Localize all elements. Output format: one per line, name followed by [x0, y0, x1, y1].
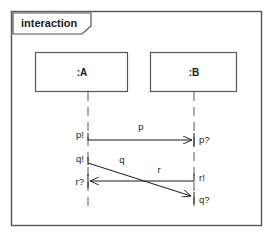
message-q-receive-event: q? — [199, 194, 210, 205]
message-q-send-event: q! — [76, 153, 84, 164]
frame-label-text: interaction — [21, 17, 78, 29]
message-q-label: q — [119, 154, 124, 165]
lifeline-a-name: :A — [77, 67, 88, 78]
message-p-receive-event: p? — [199, 134, 210, 145]
message-p-label: p — [138, 121, 143, 132]
uml-sequence-diagram: interaction :A :B p p! p? q q — [0, 0, 274, 238]
message-r-send-event: r! — [199, 172, 205, 183]
message-r-label: r — [157, 164, 160, 175]
message-p-send-event: p! — [76, 129, 84, 140]
message-r-receive-event: r? — [76, 176, 84, 187]
sequence-diagram-canvas: interaction :A :B p p! p? q q — [0, 0, 274, 238]
interaction-frame — [12, 12, 262, 226]
lifeline-b-name: :B — [189, 67, 200, 78]
